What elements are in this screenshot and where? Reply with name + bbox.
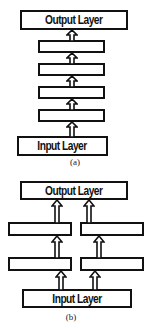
input-layer-label-a: Input Layer [38, 139, 87, 153]
up-arrow-icon [66, 75, 78, 87]
output-layer-box-b: Output Layer [20, 181, 128, 200]
up-arrow-icon [51, 199, 63, 223]
input-layer-box-b: Input Layer [22, 289, 132, 308]
input-layer-label-b: Input Layer [52, 291, 101, 305]
output-layer-label-a: Output Layer [45, 13, 102, 27]
up-arrow-icon [66, 29, 78, 41]
hidden-layer-b-left-1 [8, 257, 72, 271]
up-arrow-icon [83, 199, 95, 223]
up-arrow-icon [51, 235, 63, 258]
caption-b: (b) [56, 312, 86, 322]
output-layer-label-b: Output Layer [45, 183, 102, 197]
hidden-layer-b-right-2 [80, 222, 144, 236]
up-arrow-icon [55, 270, 67, 290]
up-arrow-icon [93, 235, 105, 258]
up-arrow-icon [66, 121, 78, 137]
output-layer-box-a: Output Layer [20, 10, 128, 30]
caption-a: (a) [60, 157, 90, 167]
up-arrow-icon [89, 270, 101, 290]
up-arrow-icon [66, 52, 78, 64]
input-layer-box-a: Input Layer [17, 136, 108, 156]
hidden-layer-b-right-1 [80, 257, 144, 271]
up-arrow-icon [66, 98, 78, 110]
hidden-layer-b-left-2 [8, 222, 72, 236]
